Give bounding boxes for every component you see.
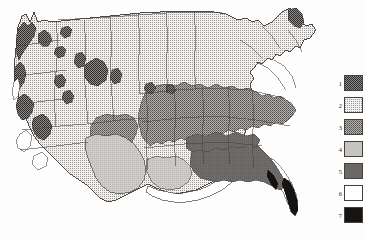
map-area (0, 0, 330, 232)
legend-number-2: 2 (333, 102, 344, 109)
legend-item-7[interactable]: 7 (333, 206, 365, 224)
legend-swatch-5 (344, 163, 363, 179)
legend-swatch-1 (344, 75, 363, 91)
legend-swatch-7 (344, 207, 363, 223)
legend-item-2[interactable]: 2 (333, 96, 365, 114)
legend-item-6[interactable]: 6 (333, 184, 365, 202)
legend-swatch-3 (344, 119, 363, 135)
legend-number-5: 5 (333, 168, 344, 175)
legend-item-4[interactable]: 4 (333, 140, 365, 158)
legend-number-1: 1 (333, 80, 344, 87)
legend-number-6: 6 (333, 190, 344, 197)
legend-item-3[interactable]: 3 (333, 118, 365, 136)
zone-legend: 1 2 3 4 5 6 7 (333, 74, 365, 226)
legend-item-1[interactable]: 1 (333, 74, 365, 92)
legend-number-3: 3 (333, 124, 344, 131)
us-zone-map (0, 0, 330, 232)
legend-swatch-6 (344, 185, 363, 201)
legend-swatch-2 (344, 97, 363, 113)
legend-number-4: 4 (333, 146, 344, 153)
figure-container: 1 2 3 4 5 6 7 (0, 0, 365, 241)
legend-swatch-4 (344, 141, 363, 157)
legend-item-5[interactable]: 5 (333, 162, 365, 180)
legend-number-7: 7 (333, 212, 344, 219)
